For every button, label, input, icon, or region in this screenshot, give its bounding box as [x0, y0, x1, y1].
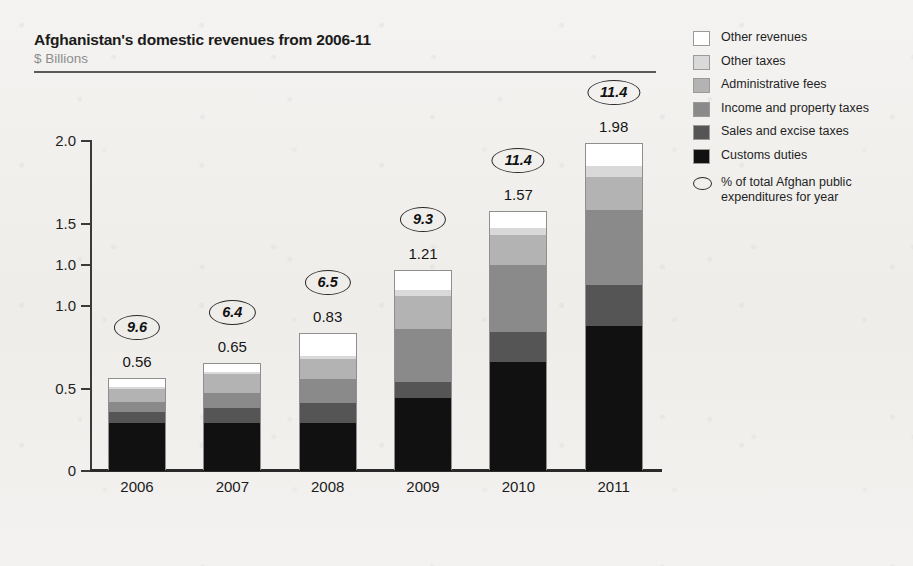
legend-swatch-icon	[693, 78, 710, 93]
y-tick-label: 1.0	[55, 255, 76, 272]
legend-item-label: Administrative fees	[721, 77, 827, 92]
bar-segment[interactable]	[204, 364, 260, 372]
bar-segment[interactable]	[109, 389, 165, 402]
y-tick-mark	[81, 388, 90, 390]
percent-badge: 11.4	[587, 80, 640, 105]
bar-group[interactable]: 1.9811.42011	[585, 140, 643, 470]
legend-note-label: % of total Afghan public expenditures fo…	[721, 175, 908, 205]
bar-segment[interactable]	[300, 403, 356, 423]
y-tick-mark	[81, 140, 90, 142]
bar-segment[interactable]	[586, 177, 642, 210]
bar-stack[interactable]	[585, 143, 643, 470]
bar-segment[interactable]	[586, 166, 642, 178]
legend-swatch-icon	[693, 125, 710, 140]
legend-item: Other revenues	[693, 30, 908, 46]
legend-item: Income and property taxes	[693, 101, 908, 117]
bar-segment[interactable]	[395, 382, 451, 399]
chart-header: Afghanistan's domestic revenues from 200…	[34, 30, 664, 73]
bar-segment[interactable]	[204, 374, 260, 394]
legend-item-label: Customs duties	[721, 148, 807, 163]
bar-segment[interactable]	[204, 423, 260, 471]
percent-badge: 6.4	[209, 300, 255, 325]
y-tick-mark	[81, 470, 90, 472]
bar-segment[interactable]	[490, 265, 546, 333]
bar-total-label: 1.57	[504, 186, 533, 203]
bar-segment[interactable]	[490, 362, 546, 471]
bar-group[interactable]: 0.836.52008	[299, 140, 357, 470]
bar-segment[interactable]	[395, 271, 451, 289]
y-tick-mark	[81, 305, 90, 307]
bar-group[interactable]: 1.219.32009	[394, 140, 452, 470]
legend-swatch-icon	[693, 149, 710, 164]
chart-legend: Other revenuesOther taxesAdministrative …	[693, 30, 908, 205]
y-axis-line	[90, 140, 92, 470]
page-title: Afghanistan's domestic revenues from 200…	[34, 30, 664, 49]
bar-segment[interactable]	[586, 210, 642, 284]
bar-total-label: 1.21	[408, 245, 437, 262]
bar-segment[interactable]	[490, 212, 546, 229]
chart-subtitle: $ Billions	[34, 50, 664, 68]
bar-stack[interactable]	[489, 211, 547, 470]
percent-badge: 9.6	[114, 315, 160, 340]
bar-segment[interactable]	[490, 235, 546, 265]
percent-badge: 6.5	[305, 270, 351, 295]
legend-item-label: Sales and excise taxes	[721, 124, 849, 139]
legend-item: Other taxes	[693, 54, 908, 70]
bar-stack[interactable]	[394, 270, 452, 470]
bar-segment[interactable]	[490, 228, 546, 235]
bar-segment[interactable]	[109, 412, 165, 424]
bar-segment[interactable]	[300, 423, 356, 471]
y-tick-label: 2.0	[55, 132, 76, 149]
legend-swatch-icon	[693, 55, 710, 70]
y-tick-label: 1.5	[55, 214, 76, 231]
x-tick-label: 2009	[406, 478, 439, 495]
bar-segment[interactable]	[300, 379, 356, 404]
bar-segment[interactable]	[109, 402, 165, 412]
legend-item-label: Income and property taxes	[721, 101, 869, 116]
legend-items: Other revenuesOther taxesAdministrative …	[693, 30, 908, 164]
bar-segment[interactable]	[395, 290, 451, 297]
oval-badge-icon	[693, 177, 712, 190]
plot-area: 00.51.01.01.52.0 0.569.620060.656.420070…	[90, 140, 662, 470]
bar-group[interactable]: 1.5711.42010	[489, 140, 547, 470]
bar-segment[interactable]	[204, 408, 260, 423]
bar-segment[interactable]	[204, 393, 260, 408]
bar-total-label: 0.56	[122, 353, 151, 370]
bar-total-label: 1.98	[599, 118, 628, 135]
legend-note: % of total Afghan public expenditures fo…	[693, 175, 908, 205]
legend-item: Administrative fees	[693, 77, 908, 93]
bar-segment[interactable]	[586, 285, 642, 326]
bar-segment[interactable]	[586, 144, 642, 165]
x-tick-label: 2008	[311, 478, 344, 495]
bar-segment[interactable]	[300, 359, 356, 379]
bar-group[interactable]: 0.656.42007	[203, 140, 261, 470]
bar-segment[interactable]	[395, 296, 451, 329]
bar-segment[interactable]	[109, 379, 165, 387]
bar-stack[interactable]	[108, 378, 166, 470]
legend-item-label: Other revenues	[721, 30, 807, 45]
header-divider	[34, 71, 656, 73]
x-tick-label: 2007	[216, 478, 249, 495]
y-tick-label: 1.0	[55, 297, 76, 314]
y-tick-label: 0	[68, 462, 76, 479]
x-tick-label: 2006	[120, 478, 153, 495]
x-tick-label: 2010	[502, 478, 535, 495]
legend-item: Customs duties	[693, 148, 908, 164]
legend-swatch-icon	[693, 31, 710, 46]
bar-stack[interactable]	[203, 363, 261, 470]
x-axis-line	[90, 469, 662, 472]
y-tick-mark	[81, 264, 90, 266]
percent-badge: 9.3	[400, 207, 446, 232]
bar-segment[interactable]	[300, 334, 356, 355]
bar-segment[interactable]	[395, 329, 451, 382]
percent-badge: 11.4	[492, 148, 545, 173]
bar-stack[interactable]	[299, 333, 357, 470]
bar-segment[interactable]	[490, 332, 546, 362]
legend-item: Sales and excise taxes	[693, 124, 908, 140]
bar-segment[interactable]	[395, 398, 451, 471]
bar-segment[interactable]	[109, 423, 165, 471]
bar-segment[interactable]	[586, 326, 642, 471]
y-tick-mark	[81, 223, 90, 225]
bar-group[interactable]: 0.569.62006	[108, 140, 166, 470]
bar-total-label: 0.65	[218, 338, 247, 355]
